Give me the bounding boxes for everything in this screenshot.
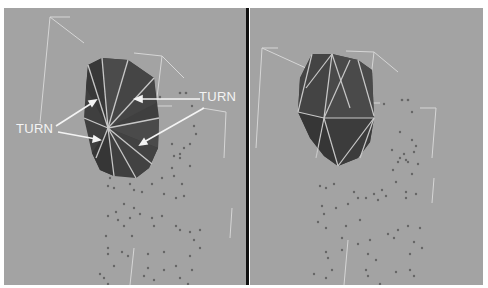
turn-label-left: TURN: [16, 121, 53, 136]
mesh-right: [298, 54, 374, 166]
panel-divider: [246, 8, 249, 285]
left-scene: [4, 8, 246, 285]
turn-label-right: TURN: [199, 89, 236, 104]
right-scene: [250, 8, 483, 285]
mesh-left: [84, 58, 159, 178]
viewport-right[interactable]: [250, 8, 483, 285]
figure: TURN TURN: [0, 0, 488, 288]
viewport-left[interactable]: TURN TURN: [4, 8, 246, 285]
